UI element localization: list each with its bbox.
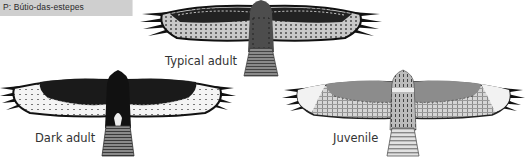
juvenile-illustration xyxy=(282,68,525,158)
bird-juvenile xyxy=(282,68,525,158)
species-label-box: P: Bútio-das-estepes xyxy=(0,0,133,16)
caption-juvenile: Juvenile xyxy=(333,131,378,145)
caption-dark-adult: Dark adult xyxy=(35,131,95,145)
species-label: P: Bútio-das-estepes xyxy=(3,2,84,12)
caption-typical-adult: Typical adult xyxy=(165,54,237,68)
